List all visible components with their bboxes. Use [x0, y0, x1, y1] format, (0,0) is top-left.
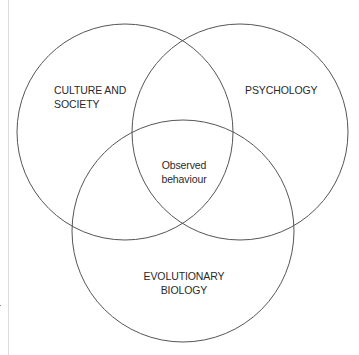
circle-psychology [132, 24, 348, 240]
label-observed-behaviour: Observed behaviour [161, 158, 206, 186]
label-line: PSYCHOLOGY [245, 83, 318, 97]
label-psychology: PSYCHOLOGY [245, 83, 318, 97]
label-evolutionary-biology: EVOLUTIONARY BIOLOGY [144, 269, 225, 297]
label-line: CULTURE AND [54, 83, 126, 97]
label-line: BIOLOGY [144, 283, 225, 297]
label-line: SOCIETY [54, 97, 126, 111]
label-line: Observed [161, 158, 206, 172]
circle-evolutionary-biology [72, 120, 294, 342]
label-line: EVOLUTIONARY [144, 269, 225, 283]
label-culture-and-society: CULTURE AND SOCIETY [54, 83, 126, 111]
label-line: behaviour [161, 172, 206, 186]
circle-culture-and-society [17, 24, 233, 240]
